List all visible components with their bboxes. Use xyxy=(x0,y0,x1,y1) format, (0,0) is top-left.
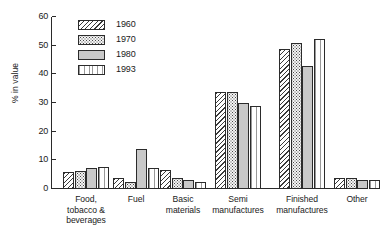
bar-1980-4 xyxy=(302,66,313,189)
bar-1970-3 xyxy=(227,92,238,189)
y-axis-tick-label: 30 xyxy=(28,98,48,107)
bar-1980-3 xyxy=(238,103,249,189)
legend-label: 1993 xyxy=(116,65,136,74)
bar-1993-1 xyxy=(148,168,159,189)
x-axis-label-5: Other xyxy=(321,194,384,205)
legend-swatch-1993 xyxy=(78,65,105,75)
legend-label: 1980 xyxy=(116,50,136,59)
bar-1993-4 xyxy=(314,39,325,189)
bar-1960-1 xyxy=(113,178,124,189)
bar-1970-4 xyxy=(291,43,302,189)
y-axis-tick-label: 40 xyxy=(28,69,48,78)
y-axis-tick-label: 60 xyxy=(28,12,48,21)
bar-1970-0 xyxy=(75,171,86,189)
legend-swatch-1980 xyxy=(78,50,105,60)
bar-group xyxy=(334,17,380,189)
bar-1960-3 xyxy=(215,92,226,189)
x-axis-label-line: Semi xyxy=(202,194,274,205)
legend-swatch-1960 xyxy=(78,20,105,30)
x-axis-label-line: manufactures xyxy=(266,205,338,216)
legend-item-1980: 1980 xyxy=(78,48,136,61)
bar-1960-5 xyxy=(334,178,345,189)
legend-item-1993: 1993 xyxy=(78,63,136,76)
bar-1993-2 xyxy=(195,182,206,189)
legend-label: 1960 xyxy=(116,20,136,29)
y-axis-tick-label: 20 xyxy=(28,127,48,136)
y-axis-tick-label: 0 xyxy=(28,184,48,193)
x-axis-label-line: tobacco & xyxy=(50,205,122,216)
legend-swatch-1970 xyxy=(78,35,105,45)
bar-1960-0 xyxy=(63,172,74,189)
y-axis-label: % in value xyxy=(10,38,20,128)
bar-1980-2 xyxy=(183,180,194,189)
y-axis-tick-label: 10 xyxy=(28,155,48,164)
bar-group xyxy=(279,17,325,189)
x-axis-label-line: Other xyxy=(321,194,384,205)
bar-1960-2 xyxy=(160,170,171,189)
bar-1993-3 xyxy=(250,106,261,189)
x-axis-label-line: manufactures xyxy=(202,205,274,216)
bar-1970-1 xyxy=(125,182,136,189)
bar-1980-1 xyxy=(136,149,147,189)
x-axis-label-line: beverages xyxy=(50,215,122,226)
legend-label: 1970 xyxy=(116,35,136,44)
legend-item-1970: 1970 xyxy=(78,33,136,46)
bar-1980-0 xyxy=(86,168,97,190)
bar-1993-5 xyxy=(369,180,380,189)
bar-1970-2 xyxy=(172,178,183,189)
bar-1980-5 xyxy=(357,180,368,189)
bar-group xyxy=(215,17,261,189)
y-axis-tick-label: 50 xyxy=(28,41,48,50)
x-axis-label-3: Semimanufactures xyxy=(202,194,274,215)
bar-1970-5 xyxy=(346,178,357,189)
chart-legend: 1960197019801993 xyxy=(78,18,136,78)
legend-item-1960: 1960 xyxy=(78,18,136,31)
bar-group xyxy=(160,17,206,189)
bar-1960-4 xyxy=(279,49,290,189)
bar-1993-0 xyxy=(98,167,109,189)
